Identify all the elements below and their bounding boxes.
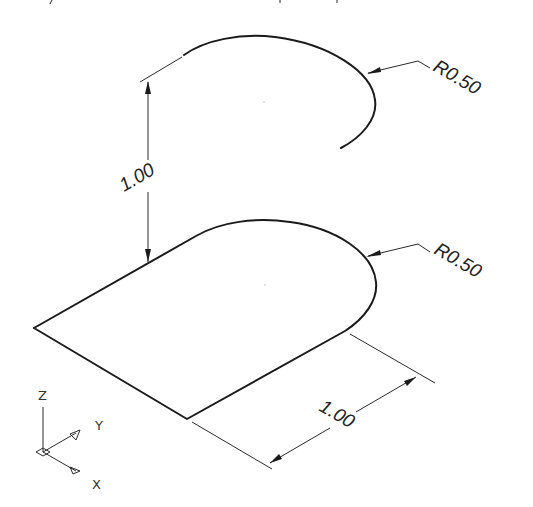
ucs-x-label: X bbox=[92, 477, 101, 492]
upper-arc bbox=[184, 36, 375, 148]
upper-extension-line bbox=[140, 57, 182, 82]
ucs-z-label: Z bbox=[38, 388, 47, 403]
lower-arc-center bbox=[264, 284, 266, 286]
upper-radius-leader bbox=[367, 61, 430, 74]
lower-profile bbox=[34, 220, 376, 419]
ucs-y-label: Y bbox=[94, 418, 103, 433]
drawing-canvas: R0.50 1.00 R0.50 1.00 Z Y X bbox=[0, 0, 533, 507]
lower-radius-label: R0.50 bbox=[431, 238, 486, 282]
bottom-dimension bbox=[192, 334, 435, 469]
cropped-top-marks bbox=[50, 0, 337, 4]
upper-arc-center bbox=[263, 101, 265, 103]
upper-radius-label: R0.50 bbox=[430, 55, 485, 99]
lower-radius-leader bbox=[366, 244, 430, 257]
vertical-dimension-label: 1.00 bbox=[116, 159, 159, 196]
ucs-icon bbox=[36, 407, 80, 474]
bottom-dimension-label: 1.00 bbox=[316, 395, 359, 432]
